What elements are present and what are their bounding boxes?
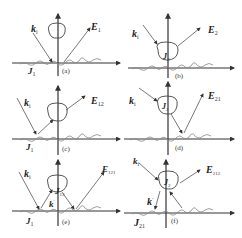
reflected-wave-label: k′	[147, 196, 153, 207]
scattered-field-label: E2	[207, 24, 218, 36]
incident-wave-label: ki	[24, 168, 31, 180]
panel-caption: (d)	[175, 144, 184, 152]
surface-current-label: J1	[25, 216, 34, 227]
scattered-field-label: E21	[207, 90, 221, 102]
panel-caption: (e)	[62, 218, 70, 226]
incident-wave-label: ki	[24, 97, 31, 109]
object-to-surface-ray	[155, 191, 160, 209]
panel-caption: (c)	[62, 145, 70, 153]
scatterer-object	[48, 23, 65, 38]
incident-wave-label: ki	[133, 156, 140, 167]
incident-ray	[33, 33, 52, 62]
panel-caption: (b)	[175, 72, 184, 80]
incident-ray	[139, 88, 157, 101]
rough-surface	[20, 206, 101, 214]
object-current-label: J2	[163, 178, 171, 188]
scattered-field-label: E212	[205, 164, 221, 176]
scattered-field-label: E121	[101, 164, 116, 175]
panel-b: ki E2 J2 (b)	[128, 14, 234, 80]
panel-d: ki E21 J2 (d)	[124, 82, 234, 155]
object-current-label: J12	[54, 186, 65, 197]
incident-ray	[139, 163, 158, 180]
scattered-field-label: E1	[90, 21, 101, 33]
surface-current-label: J21	[133, 217, 145, 229]
object-to-surface-ray	[171, 114, 182, 133]
incident-wave-label: ki	[129, 95, 136, 107]
scattered-ray	[76, 172, 104, 209]
panel-f: ki E212 J2 k′ J21 (f)	[124, 156, 234, 229]
incident-wave-label: ki	[31, 23, 38, 35]
object-current-label: J2	[162, 52, 170, 62]
scatterer-object	[47, 103, 67, 121]
rough-surface	[130, 134, 211, 142]
scattered-ray	[64, 28, 90, 62]
panel-c: ki E12 J1 (c)	[12, 86, 120, 155]
rough-surface	[132, 63, 213, 71]
panel-a: ki E1 J1 (a)	[12, 14, 120, 77]
panel-e: ki E121 J12 k′ J1 (e)	[12, 160, 120, 227]
panel-caption: (f)	[171, 217, 179, 225]
scattered-ray	[66, 96, 85, 110]
rough-surface	[20, 58, 101, 66]
surface-current-label: J1	[25, 142, 34, 153]
surface-current-label: J1	[27, 66, 36, 77]
rough-surface	[132, 208, 213, 216]
rough-surface	[20, 134, 101, 142]
reflected-wave-label: k′	[49, 199, 55, 209]
surface-to-object-ray	[38, 120, 53, 134]
scattered-field-label: E12	[90, 95, 104, 107]
scattered-ray	[184, 94, 203, 133]
scattering-diagram: ki E1 J1 (a) ki E2 J2 (b) ki E12 J1 (c)	[0, 0, 242, 238]
incident-wave-label: ki	[132, 28, 139, 40]
incident-ray	[143, 25, 157, 44]
panel-caption: (a)	[62, 67, 70, 75]
scattered-ray	[178, 28, 200, 46]
surface-to-object-ray	[170, 192, 182, 208]
scattered-ray	[180, 170, 200, 183]
